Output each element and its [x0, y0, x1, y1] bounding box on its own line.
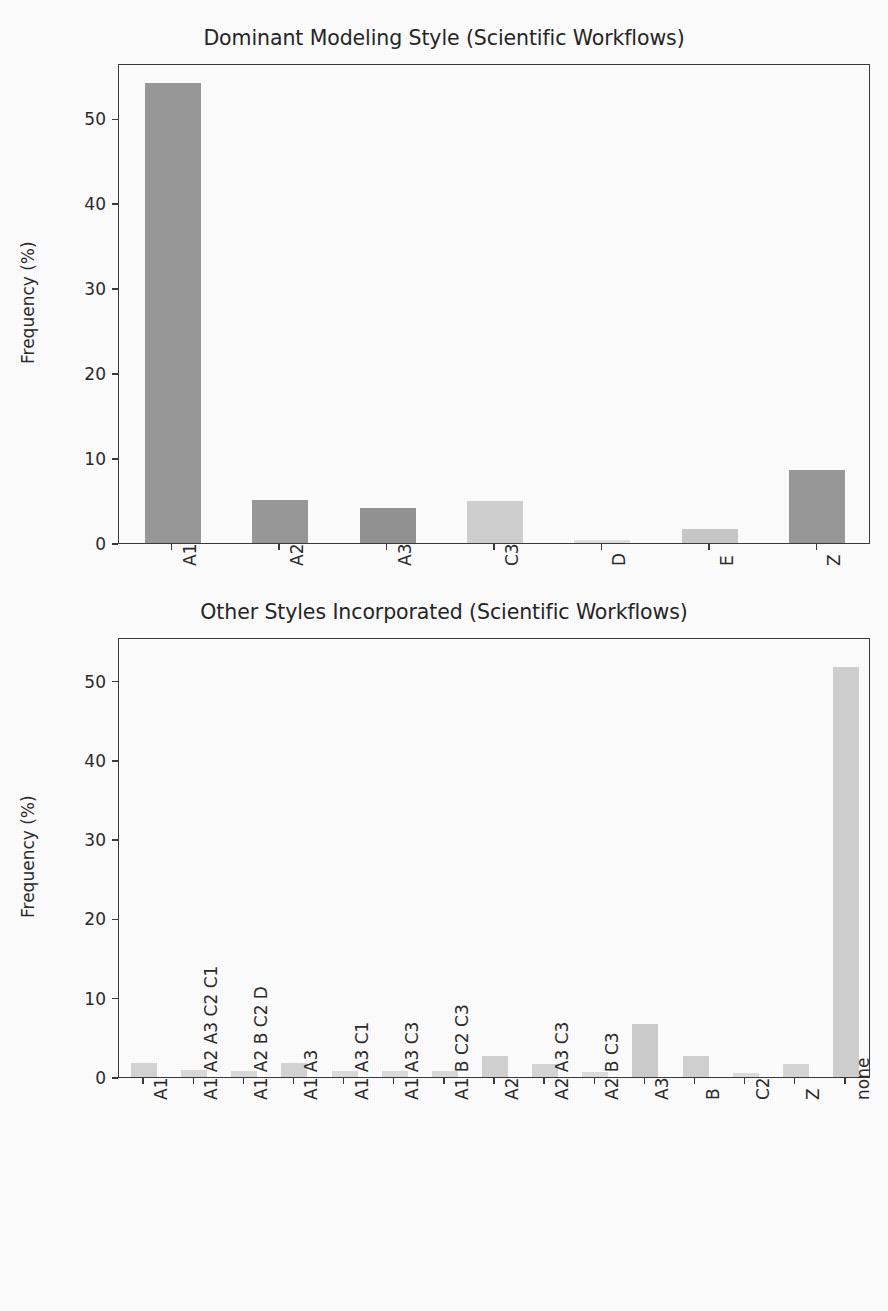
x-tick-mark	[343, 1078, 344, 1084]
y-tick-label: 20	[84, 909, 106, 929]
x-tick-label: A3	[395, 544, 415, 566]
y-tick-mark	[112, 919, 118, 920]
y-tick-label: 0	[95, 1068, 106, 1088]
x-tick-label: A2 B C3	[602, 1032, 622, 1100]
bar	[682, 529, 738, 543]
x-tick-mark	[493, 544, 494, 550]
y-tick-mark	[112, 373, 118, 374]
bar	[789, 470, 845, 543]
x-tick-label: Z	[824, 554, 844, 566]
x-tick-label: A3	[652, 1078, 672, 1100]
x-tick-label: A2 A3 C3	[552, 1022, 572, 1100]
y-tick-label: 30	[84, 830, 106, 850]
y-tick-label: 10	[84, 989, 106, 1009]
x-tick-label: D	[609, 553, 629, 566]
bar	[683, 1056, 709, 1077]
x-tick-label: A1 B C2 C3	[452, 1004, 472, 1100]
plot-area-top	[119, 65, 869, 543]
x-tick-mark	[193, 1078, 194, 1084]
y-tick-mark	[112, 1077, 118, 1078]
bar	[131, 1063, 157, 1077]
y-tick-label: 30	[84, 279, 106, 299]
x-tick-label: A2	[502, 1078, 522, 1100]
x-tick-mark	[744, 1078, 745, 1084]
y-tick-mark	[112, 458, 118, 459]
x-tick-mark	[293, 1078, 294, 1084]
chart-panel-other-styles-incorporated: Other Styles Incorporated (Scientific Wo…	[0, 600, 888, 1300]
x-tick-mark	[386, 544, 387, 550]
plot-axes-top	[118, 64, 870, 544]
bar	[783, 1064, 809, 1077]
y-tick-mark	[112, 288, 118, 289]
x-tick-mark	[493, 1078, 494, 1084]
y-tick-mark	[112, 119, 118, 120]
x-tick-label: A1	[151, 1078, 171, 1100]
plot-area-bottom	[119, 639, 869, 1077]
y-tick-mark	[112, 760, 118, 761]
x-tick-label: A1 A3	[301, 1050, 321, 1100]
x-tick-label: E	[717, 555, 737, 566]
x-tick-mark	[594, 1078, 595, 1084]
chart-title-top: Dominant Modeling Style (Scientific Work…	[0, 26, 888, 50]
x-tick-mark	[171, 544, 172, 550]
x-tick-mark	[644, 1078, 645, 1084]
bar	[482, 1056, 508, 1077]
x-tick-mark	[443, 1078, 444, 1084]
x-tick-mark	[601, 544, 602, 550]
x-tick-label: A1	[180, 544, 200, 566]
bar	[574, 540, 630, 543]
y-tick-mark	[112, 998, 118, 999]
x-tick-mark	[694, 1078, 695, 1084]
x-tick-mark	[794, 1078, 795, 1084]
x-tick-mark	[844, 1078, 845, 1084]
x-tick-mark	[708, 544, 709, 550]
x-tick-label: C2	[753, 1077, 773, 1100]
bar	[252, 500, 308, 543]
x-tick-label: B	[703, 1088, 723, 1100]
y-axis-label-bottom: Frequency (%)	[18, 795, 38, 918]
plot-axes-bottom	[118, 638, 870, 1078]
x-tick-mark	[142, 1078, 143, 1084]
x-tick-label: C3	[502, 543, 522, 566]
figure-canvas: Dominant Modeling Style (Scientific Work…	[0, 0, 888, 1311]
chart-title-bottom: Other Styles Incorporated (Scientific Wo…	[0, 600, 888, 624]
x-tick-label: Z	[803, 1088, 823, 1100]
bar	[632, 1024, 658, 1077]
y-tick-label: 40	[84, 194, 106, 214]
x-tick-label: A2	[287, 544, 307, 566]
x-tick-mark	[243, 1078, 244, 1084]
x-tick-mark	[543, 1078, 544, 1084]
y-tick-label: 10	[84, 449, 106, 469]
x-tick-mark	[278, 544, 279, 550]
y-tick-mark	[112, 839, 118, 840]
x-tick-mark	[816, 544, 817, 550]
x-tick-mark	[393, 1078, 394, 1084]
y-axis-label-top: Frequency (%)	[18, 241, 38, 364]
y-tick-label: 20	[84, 364, 106, 384]
y-tick-mark	[112, 681, 118, 682]
bar	[360, 508, 416, 543]
x-tick-label: A1 A3 C1	[352, 1022, 372, 1100]
bar	[833, 667, 859, 1077]
y-tick-label: 50	[84, 109, 106, 129]
y-tick-label: 40	[84, 751, 106, 771]
y-tick-mark	[112, 203, 118, 204]
bar	[467, 501, 523, 543]
x-tick-label: A1 A2 A3 C2 C1	[201, 966, 221, 1100]
x-tick-label: A1 A2 B C2 D	[251, 986, 271, 1100]
y-tick-label: 50	[84, 672, 106, 692]
x-tick-label: A1 A3 C3	[402, 1022, 422, 1100]
y-tick-label: 0	[95, 534, 106, 554]
bar	[145, 83, 201, 543]
y-tick-mark	[112, 543, 118, 544]
x-tick-label: none	[853, 1058, 873, 1100]
chart-panel-dominant-modeling-style: Dominant Modeling Style (Scientific Work…	[0, 26, 888, 586]
